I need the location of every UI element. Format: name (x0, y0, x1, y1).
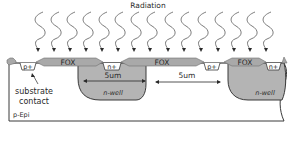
cmos-cross-section-diagram: Radiation FOX FOX FOX p+ n+ p+ n+ 5um 5u… (0, 0, 293, 144)
dimension-label-1: 5um (105, 71, 122, 80)
n-well-label-2: n-well (255, 89, 275, 97)
fox-label-2: FOX (155, 58, 170, 67)
radiation-wave-15 (263, 12, 273, 49)
radiation-arrowhead-icon (248, 48, 252, 52)
radiation-wave-14 (247, 12, 257, 49)
radiation-arrowhead-icon (199, 48, 203, 52)
fox-label-1: FOX (61, 58, 76, 67)
radiation-arrowhead-icon (264, 48, 268, 52)
n-well-label-1: n-well (103, 89, 123, 97)
radiation-arrowhead-icon (166, 48, 170, 52)
radiation-arrowhead-icon (36, 48, 40, 52)
radiation-wave-7 (131, 12, 141, 49)
radiation-wave-3 (67, 12, 77, 49)
p-epi-label: p-Epi (13, 111, 30, 119)
fox-right-edge (282, 57, 287, 63)
radiation-wave-2 (51, 12, 61, 49)
radiation-arrowhead-icon (116, 48, 120, 52)
radiation-wave-12 (215, 12, 225, 49)
radiation-arrowhead-icon (68, 48, 72, 52)
radiation-wave-9 (165, 12, 175, 49)
radiation-arrowhead-icon (100, 48, 104, 52)
radiation-wave-10 (181, 12, 191, 49)
radiation-wave-5 (99, 12, 109, 49)
radiation-arrowhead-icon (52, 48, 56, 52)
radiation-arrowhead-icon (132, 48, 136, 52)
substrate-contact-label-line1: substrate (15, 87, 53, 96)
radiation-arrowhead-icon (232, 48, 236, 52)
radiation-arrowhead-icon (182, 48, 186, 52)
dimension-label-2: 5um (179, 71, 196, 80)
radiation-arrowhead-icon (84, 48, 88, 52)
radiation-wave-8 (147, 12, 157, 49)
n-plus-label-1: n+ (107, 63, 117, 71)
radiation-wave-6 (115, 12, 125, 49)
p-plus-label-1: p+ (23, 63, 33, 71)
radiation-arrowhead-icon (148, 48, 152, 52)
n-plus-label-2: n+ (269, 63, 279, 71)
radiation-wave-1 (35, 12, 45, 49)
radiation-arrowhead-icon (216, 48, 220, 52)
radiation-arrows (35, 12, 273, 52)
radiation-wave-4 (83, 12, 93, 49)
radiation-title: Radiation (130, 1, 166, 10)
radiation-wave-11 (198, 12, 208, 49)
substrate-contact-label-line2: contact (19, 97, 49, 106)
fox-label-3: FOX (238, 58, 253, 67)
p-plus-label-2: p+ (207, 63, 217, 71)
radiation-wave-13 (231, 12, 241, 49)
